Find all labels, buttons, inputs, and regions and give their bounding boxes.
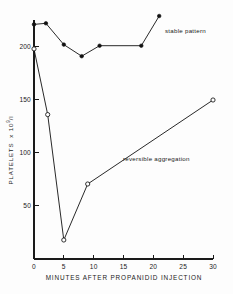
y-tick-label-50: 50 [23, 202, 31, 209]
y-axis-title-group: PLATELETSx 109/l [6, 116, 14, 185]
data-point [140, 44, 144, 48]
x-tick-label-25: 25 [179, 263, 187, 270]
data-point [62, 43, 66, 47]
annotation-reversible-aggregation: reversible aggregation [123, 155, 190, 162]
x-tick-group: 0 5 10 15 20 25 30 [32, 255, 217, 271]
data-point [46, 113, 50, 117]
data-point [32, 23, 36, 27]
axes-group [34, 20, 213, 259]
data-point [211, 98, 215, 102]
data-point [86, 182, 90, 186]
series-stable-pattern [32, 14, 161, 58]
x-tick-label-0: 0 [32, 263, 36, 270]
y-axis-unit-tail: /l [7, 116, 14, 121]
series-stable-pattern-line [34, 16, 159, 56]
x-axis-title: MINUTES AFTER PROPANIDID INJECTION [46, 274, 203, 281]
data-point [44, 22, 48, 26]
y-tick-group: 200 150 100 50 [19, 43, 39, 209]
series-reversible-aggregation-line [34, 49, 213, 240]
data-point [157, 14, 161, 18]
x-tick-label-10: 10 [90, 263, 98, 270]
y-tick-label-200: 200 [19, 43, 31, 50]
y-tick-label-150: 150 [19, 96, 31, 103]
y-axis-unit-base: x 10 [7, 123, 14, 138]
data-point [80, 54, 84, 58]
x-tick-label-20: 20 [149, 263, 157, 270]
x-tick-label-30: 30 [209, 263, 217, 270]
series-reversible-aggregation [32, 47, 215, 242]
x-tick-label-15: 15 [120, 263, 128, 270]
y-axis-title-text: PLATELETS [7, 143, 14, 185]
platelet-count-chart: 200 150 100 50 0 5 10 15 20 25 30 MINUTE… [0, 0, 233, 294]
annotation-stable-pattern: stable pattern [165, 27, 206, 34]
y-axis-title: PLATELETSx 109/l [6, 116, 14, 185]
figure-container: 200 150 100 50 0 5 10 15 20 25 30 MINUTE… [0, 0, 233, 294]
y-tick-label-100: 100 [19, 149, 31, 156]
x-tick-label-5: 5 [62, 263, 66, 270]
data-point [62, 238, 66, 242]
data-point [32, 47, 36, 51]
data-point [98, 44, 102, 48]
